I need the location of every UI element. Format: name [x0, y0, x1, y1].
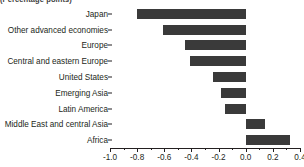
- category-label: Other advanced economies: [8, 25, 108, 34]
- x-tick-major: [300, 148, 301, 152]
- x-tick-minor: [178, 148, 179, 150]
- category-tick: [108, 92, 112, 93]
- x-tick-major: [110, 148, 111, 152]
- x-tick-label: -0.4: [184, 153, 198, 163]
- bar-row: Other advanced economies: [0, 22, 304, 38]
- bar: [246, 119, 265, 129]
- bar: [213, 72, 246, 82]
- bar-row: Latin America: [0, 101, 304, 117]
- x-tick-label: -0.8: [130, 153, 144, 163]
- category-tick: [108, 45, 112, 46]
- category-label: Emerging Asia: [55, 88, 108, 97]
- bar-row: Middle East and central Asia: [0, 117, 304, 133]
- bar-row: Japan: [0, 6, 304, 22]
- x-tick-major: [191, 148, 192, 152]
- category-label: Latin America: [58, 104, 108, 113]
- chart-figure: (Percentage points) JapanOther advanced …: [0, 0, 304, 167]
- x-tick-major: [164, 148, 165, 152]
- category-label: Middle East and central Asia: [5, 120, 108, 129]
- x-tick-major: [246, 148, 247, 152]
- plot-area: JapanOther advanced economiesEuropeCentr…: [0, 5, 304, 148]
- category-label: Central and eastern Europe: [7, 57, 108, 66]
- x-tick-major: [219, 148, 220, 152]
- x-tick-major: [273, 148, 274, 152]
- bar-row: United States: [0, 69, 304, 85]
- bar-row: Africa: [0, 132, 304, 148]
- category-label: Africa: [87, 136, 108, 145]
- bar: [163, 25, 246, 35]
- category-tick: [108, 124, 112, 125]
- bar: [190, 56, 246, 66]
- bar-row: Europe: [0, 38, 304, 54]
- category-tick: [108, 77, 112, 78]
- bar-row: Central and eastern Europe: [0, 53, 304, 69]
- x-tick-label: -0.2: [212, 153, 226, 163]
- x-tick-minor: [286, 148, 287, 150]
- x-tick-minor: [124, 148, 125, 150]
- x-tick-label: 0.2: [267, 153, 278, 163]
- category-tick: [108, 61, 112, 62]
- bar: [246, 135, 291, 145]
- x-tick-minor: [151, 148, 152, 150]
- bar: [185, 40, 246, 50]
- x-tick-label: 0.4: [294, 153, 304, 163]
- x-tick-label: -1.0: [103, 153, 117, 163]
- category-tick: [108, 140, 112, 141]
- x-tick-minor: [232, 148, 233, 150]
- category-tick: [108, 29, 112, 30]
- bar: [137, 9, 246, 19]
- category-label: Europe: [82, 41, 108, 50]
- category-tick: [108, 108, 112, 109]
- bar: [225, 104, 245, 114]
- category-label: Japan: [86, 9, 108, 18]
- bar: [221, 88, 245, 98]
- x-tick-label: 0.0: [240, 153, 251, 163]
- x-tick-minor: [259, 148, 260, 150]
- x-tick-major: [137, 148, 138, 152]
- category-tick: [108, 13, 112, 14]
- category-label: United States: [59, 73, 108, 82]
- x-tick-minor: [205, 148, 206, 150]
- bar-row: Emerging Asia: [0, 85, 304, 101]
- x-tick-label: -0.6: [157, 153, 171, 163]
